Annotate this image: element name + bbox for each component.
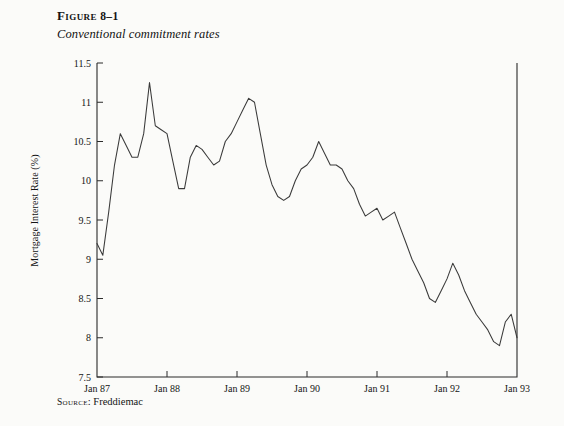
svg-text:Jan 93: Jan 93: [504, 383, 530, 394]
line-chart: 11.51110.5109.598.587.5Jan 87Jan 88Jan 8…: [0, 0, 564, 426]
svg-text:Jan 90: Jan 90: [294, 383, 320, 394]
source-colon: :: [88, 396, 91, 407]
chart-axes: [97, 63, 517, 377]
svg-text:11.5: 11.5: [74, 58, 91, 69]
svg-text:11: 11: [81, 97, 91, 108]
chart-series: [97, 83, 517, 346]
svg-text:8.5: 8.5: [79, 293, 92, 304]
svg-text:10.5: 10.5: [74, 136, 92, 147]
svg-text:10: 10: [81, 175, 91, 186]
svg-text:Jan 89: Jan 89: [224, 383, 250, 394]
series-line: [97, 83, 517, 346]
source-value: Freddiemac: [93, 396, 143, 407]
figure-container: Figure 8–1 Conventional commitment rates…: [0, 0, 564, 426]
chart-tick-labels: 11.51110.5109.598.587.5Jan 87Jan 88Jan 8…: [74, 58, 530, 395]
svg-text:8: 8: [86, 332, 91, 343]
svg-text:Jan 91: Jan 91: [364, 383, 390, 394]
svg-text:9: 9: [86, 254, 91, 265]
chart-ticks: [97, 63, 447, 377]
source-prefix: Source: [57, 397, 88, 407]
svg-text:Jan 87: Jan 87: [84, 383, 110, 394]
svg-text:Jan 88: Jan 88: [154, 383, 180, 394]
svg-text:9.5: 9.5: [79, 215, 92, 226]
svg-text:7.5: 7.5: [79, 372, 92, 383]
svg-text:Jan 92: Jan 92: [434, 383, 460, 394]
source-note: Source: Freddiemac: [57, 396, 143, 407]
